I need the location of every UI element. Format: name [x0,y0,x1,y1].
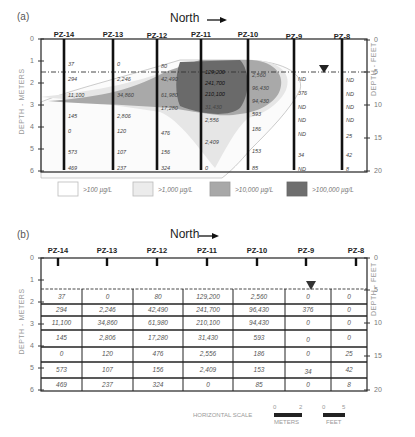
well-label-pz12-b: PZ-12 [147,246,167,255]
panel-b-north-label: North [170,227,199,241]
meters-tick: 4 [30,123,34,130]
meters-tick: 0 [30,35,34,42]
well-label-pz14-b: PZ-14 [48,246,68,255]
right-axis-title-b: DEPTH - FEET [370,262,377,316]
feet-tick: 15 [374,134,382,141]
well-label-pz11-a: PZ-11 [191,30,211,39]
left-axis-title-b: DEPTH - METERS [18,288,25,354]
meters-tick: 2 [30,298,34,305]
meters-tick: 3 [30,101,34,108]
scale-feet-max: 5 [342,404,345,410]
well-label-pz8-b: PZ-8 [348,246,364,255]
well-label-pz8-a: PZ-8 [334,32,350,41]
feet-tick: 20 [374,386,382,393]
scale-feet-unit: FEET [326,419,341,425]
well-label-pz10-b: PZ-10 [247,246,267,255]
meters-tick: 6 [30,167,34,174]
meters-tick: 1 [30,276,34,283]
legend-100: >100 µg/L [83,186,112,193]
scale-meters-unit: METERS [274,419,299,425]
meters-tick: 6 [30,386,34,393]
scale-meters-min: 0 [273,404,276,410]
meters-tick: 5 [30,145,34,152]
feet-tick: 0 [374,254,378,261]
legend-10000: >10,000 µg/L [235,186,273,193]
feet-tick: 10 [374,101,382,108]
legend-100000: >100,000 µg/L [312,186,354,193]
scale-bar-feet [323,413,345,417]
panel-b-label: (b) [17,229,29,240]
left-axis-title-a: DEPTH - METERS [18,68,25,134]
right-axis-title-a: DEPTH - FEET [370,42,377,96]
water-table-marker-icon [319,65,329,73]
well-label-pz11-b: PZ-11 [197,246,217,255]
meters-tick: 1 [30,57,34,64]
well-label-pz13-a: PZ-13 [103,30,123,39]
feet-tick: 15 [374,352,382,359]
scale-feet-min: 0 [322,404,325,410]
meters-tick: 4 [30,342,34,349]
well-label-pz10-a: PZ-10 [238,30,258,39]
well-label-pz14-a: PZ-14 [54,30,74,39]
meters-tick: 5 [30,364,34,371]
meters-tick: 2 [30,79,34,86]
meters-tick: 0 [30,254,34,261]
scale-bar-meters [274,413,302,417]
feet-tick: 20 [374,167,382,174]
legend-1000: >1,000 µg/L [158,186,193,193]
feet-tick: 10 [374,319,382,326]
horizontal-scale-title: HORIZONTAL SCALE [193,412,252,418]
north-arrow-icon [207,17,227,23]
scale-meters-max: 2 [299,404,302,410]
north-arrow-b-icon [199,233,219,239]
meters-tick: 3 [30,320,34,327]
well-label-pz13-b: PZ-13 [97,246,117,255]
well-label-pz9-b: PZ-9 [298,246,314,255]
well-label-pz12-a: PZ-12 [147,31,167,40]
well-label-pz9-a: PZ-9 [286,32,302,41]
